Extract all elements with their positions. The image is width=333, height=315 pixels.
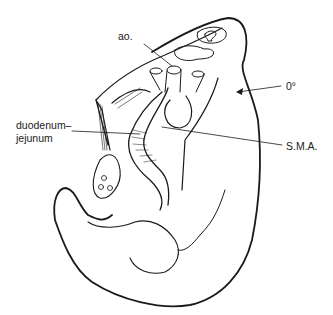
vessel-circle (102, 176, 107, 181)
label-duodenum-line2: jejunum (16, 132, 53, 144)
outer-outline (54, 18, 260, 306)
cecum-outline (93, 155, 120, 198)
label-sma: S.M.A. (286, 140, 318, 152)
right-lower-edge (178, 190, 225, 250)
vessel-circle (99, 185, 104, 190)
label-duodenum-line1: duodenum– (16, 119, 71, 131)
sma-leader-line (162, 127, 282, 145)
angle-arrowhead (236, 88, 243, 95)
label-aorta: ao. (118, 30, 133, 42)
right-flap (182, 78, 218, 190)
label-angle: 0° (286, 80, 296, 92)
sma-loop (165, 96, 192, 128)
lower-mesentery (88, 221, 178, 273)
illustration-drawing (0, 0, 333, 315)
vessel-circle (108, 186, 113, 191)
angle-leader-line (238, 86, 281, 92)
anatomy-illustration: ao. 0° duodenum– jejunum S.M.A. (0, 0, 333, 315)
aorta-stump (167, 66, 181, 74)
vessel-stump-1 (150, 68, 162, 74)
vessel-stump-3 (192, 71, 204, 77)
